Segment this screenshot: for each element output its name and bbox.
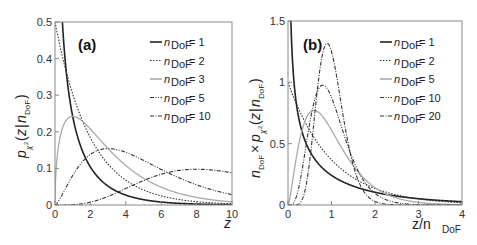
legend-entry: nDoF= 2 [164,55,205,70]
legend-entry: nDoF= 5 [394,73,435,88]
curve-dof-5 [55,149,232,205]
svg-text:n: n [247,170,263,178]
legend-entry: nDoF= 1 [394,36,435,51]
panel-a-xlabel: z [223,215,231,231]
x-tick-label: 4 [123,208,129,220]
legend-entry: nDoF= 2 [394,55,435,70]
y-tick-label: 0.1 [37,162,52,174]
x-tick-label: 1 [328,208,334,220]
panel-b-chart: 0123400.511.5 (b) nDoF= 1nDoF= 2nDoF= 5n… [247,0,465,235]
svg-text:n: n [164,73,170,85]
svg-text:= 1: = 1 [419,36,435,48]
y-tick-label: 0 [46,199,52,211]
x-tick-label: 4 [459,208,465,220]
svg-text:DoF: DoF [257,84,266,99]
svg-text:DoF: DoF [257,155,266,170]
x-tick-label: 8 [194,208,200,220]
y-tick-label: 0 [279,199,285,211]
curve-dof-20 [288,43,462,205]
svg-text:p: p [13,150,29,159]
legend-entry: nDoF= 1 [164,36,205,51]
svg-text:×: × [247,145,263,153]
svg-text:= 10: = 10 [189,110,211,122]
legend-entry: nDoF= 20 [394,110,441,125]
svg-text:= 2: = 2 [189,55,205,67]
svg-text:n: n [247,99,263,107]
svg-text:): ) [247,78,263,83]
legend-entry: nDoF= 3 [164,73,205,88]
svg-text:z: z [247,113,263,121]
panel-b-ylabel: n DoF × p χ 2 ( z | n DoF ) [247,78,267,178]
panel-b-label: (b) [303,36,322,53]
x-tick-label: 2 [87,208,93,220]
svg-text:n: n [164,110,170,122]
svg-text:= 1: = 1 [189,36,205,48]
y-tick-label: 0.2 [37,126,52,138]
svg-text:z: z [13,129,29,137]
panel-a-curves [55,0,232,205]
svg-text:p: p [247,134,263,143]
legend-entry: nDoF= 10 [164,110,211,125]
svg-text:n: n [164,92,170,104]
svg-text:= 3: = 3 [189,73,205,85]
svg-text:n: n [164,55,170,67]
y-tick-label: 0.5 [37,16,52,28]
svg-text:n: n [394,92,400,104]
svg-text:n: n [394,110,400,122]
svg-text:n: n [394,55,400,67]
svg-text:= 5: = 5 [419,73,435,85]
x-tick-label: 0 [285,208,291,220]
panel-b-xlabel: z/n DoF [412,216,461,235]
svg-text:): ) [13,94,29,99]
panel-a-label: (a) [78,36,96,53]
y-tick-label: 1.5 [270,15,285,27]
curve-dof-1 [55,0,232,205]
svg-text:= 5: = 5 [189,92,205,104]
svg-text:n: n [164,36,170,48]
svg-text:|: | [13,124,29,128]
panel-a-legend: nDoF= 1nDoF= 2nDoF= 3nDoF= 5nDoF= 10 [150,36,211,125]
svg-text:= 20: = 20 [419,110,441,122]
x-tick-label: 6 [158,208,164,220]
panel-a-ylabel: p χ 2 ( z | n DoF ) [13,94,33,159]
legend-entry: nDoF= 5 [164,92,205,107]
y-tick-label: 0.3 [37,89,52,101]
svg-text:= 10: = 10 [419,92,441,104]
panel-a-chart: 024681000.10.20.30.40.5 (a) nDoF= 1nDoF=… [13,0,238,231]
y-tick-label: 0.5 [270,138,285,150]
x-tick-label: 0 [52,208,58,220]
svg-text:n: n [394,73,400,85]
svg-text:|: | [247,108,263,112]
svg-text:z/n: z/n [412,216,431,232]
svg-text:DoF: DoF [23,100,32,115]
y-tick-label: 0.4 [37,53,52,65]
svg-text:DoF: DoF [442,224,461,235]
figure: 024681000.10.20.30.40.5 (a) nDoF= 1nDoF=… [0,0,477,245]
y-tick-label: 1 [279,76,285,88]
x-tick-label: 2 [372,208,378,220]
svg-text:n: n [13,115,29,123]
panel-b-legend: nDoF= 1nDoF= 2nDoF= 5nDoF= 10nDoF= 20 [380,36,441,125]
legend-entry: nDoF= 10 [394,92,441,107]
svg-text:= 2: = 2 [419,55,435,67]
svg-text:n: n [394,36,400,48]
